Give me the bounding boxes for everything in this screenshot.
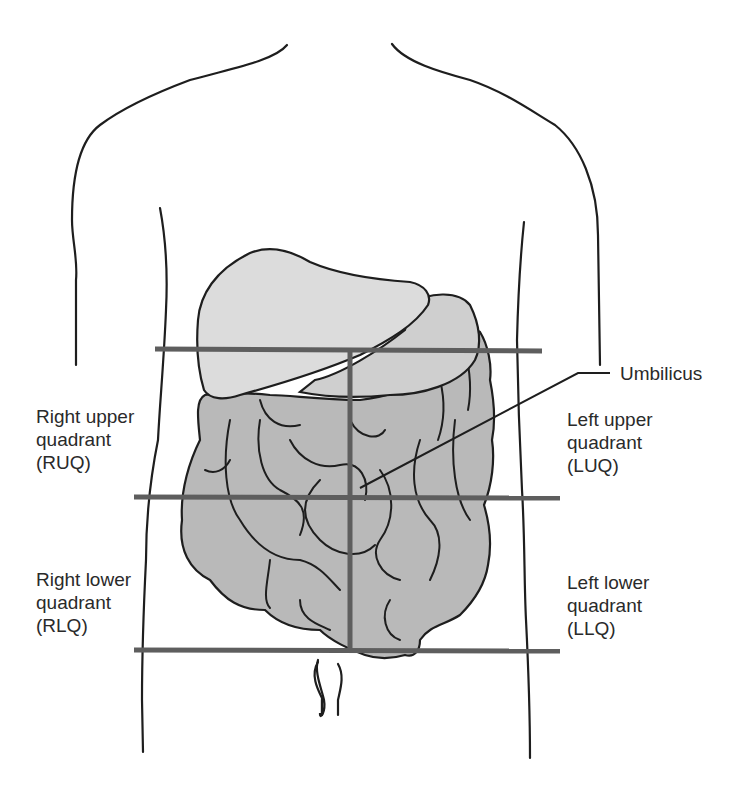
abdominal-quadrants-diagram: Umbilicus Right upper quadrant (RUQ) Lef… — [0, 0, 753, 788]
rlq-label: Right lower quadrant (RLQ) — [36, 568, 131, 637]
ruq-label-line3: (RUQ) — [36, 451, 134, 474]
upper-horizontal-line — [155, 349, 542, 351]
middle-horizontal-line — [134, 497, 560, 498]
llq-label-line2: quadrant — [567, 594, 649, 617]
luq-label: Left upper quadrant (LUQ) — [567, 408, 653, 477]
rlq-label-line1: Right lower — [36, 568, 131, 591]
llq-label-line3: (LLQ) — [567, 617, 649, 640]
llq-label: Left lower quadrant (LLQ) — [567, 571, 649, 640]
rlq-label-line2: quadrant — [36, 591, 131, 614]
umbilicus-label: Umbilicus — [620, 362, 702, 385]
luq-label-line2: quadrant — [567, 431, 653, 454]
llq-label-line1: Left lower — [567, 571, 649, 594]
lower-horizontal-line — [134, 650, 560, 651]
ruq-label: Right upper quadrant (RUQ) — [36, 405, 134, 474]
ruq-label-line2: quadrant — [36, 428, 134, 451]
ruq-label-line1: Right upper — [36, 405, 134, 428]
luq-label-line1: Left upper — [567, 408, 653, 431]
torso-illustration — [0, 0, 753, 788]
luq-label-line3: (LUQ) — [567, 454, 653, 477]
rlq-label-line3: (RLQ) — [36, 614, 131, 637]
intestines — [181, 249, 494, 658]
